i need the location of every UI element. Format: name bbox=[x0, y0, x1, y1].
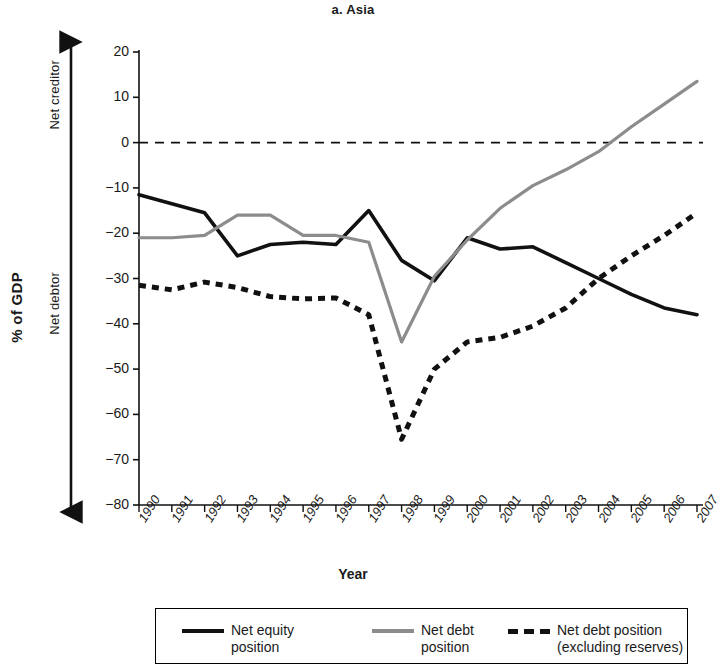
series-line bbox=[139, 195, 697, 315]
legend-line-swatch-dashed-black bbox=[508, 624, 550, 638]
legend-label: Net debt position (excluding reserves) bbox=[557, 622, 683, 656]
series-line bbox=[139, 81, 697, 341]
series-line bbox=[139, 213, 697, 440]
legend-line-swatch-solid-black bbox=[182, 624, 224, 638]
legend-item-net-debt-position-excluding-reserves: Net debt position (excluding reserves) bbox=[508, 622, 683, 656]
legend-label: Net equity position bbox=[231, 622, 294, 656]
legend-item-net-debt-position: Net debt position bbox=[372, 622, 474, 656]
legend-item-net-equity-position: Net equity position bbox=[182, 622, 294, 656]
legend-line-swatch-solid-gray bbox=[372, 624, 414, 638]
axis-lines bbox=[133, 50, 703, 512]
legend: Net equity position Net debt position Ne… bbox=[155, 608, 688, 664]
x-axis-label: Year bbox=[0, 566, 706, 582]
legend-label: Net debt position bbox=[421, 622, 474, 656]
data-series-group bbox=[139, 81, 697, 439]
